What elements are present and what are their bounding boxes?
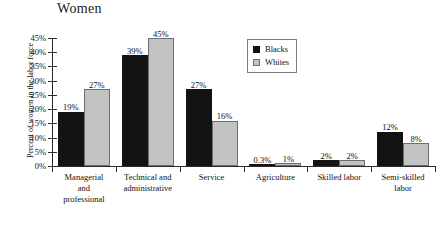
bar-whites: 2% <box>339 160 365 166</box>
bar-value-label: 19% <box>63 103 79 112</box>
bar-whites: 27% <box>84 89 110 166</box>
legend-swatch-icon <box>253 46 260 53</box>
category-label: Semi-skilledlabor <box>371 172 435 194</box>
y-tick-label: 40% <box>30 48 46 57</box>
bar-value-label: 8% <box>410 135 421 144</box>
bar-blacks: 12% <box>377 132 403 166</box>
category-label: Technical andadministrative <box>116 172 180 194</box>
bar-value-label: 45% <box>153 30 169 39</box>
y-tick-mark <box>48 123 57 124</box>
legend-item-whites: Whites <box>253 56 289 69</box>
y-tick-mark <box>48 66 57 67</box>
chart-legend: BlacksWhites <box>247 39 297 73</box>
category-label: Agriculture <box>244 172 308 183</box>
category-label-line: Service <box>180 172 244 183</box>
bar-blacks: 19% <box>58 112 84 166</box>
y-tick-label: 15% <box>30 119 46 128</box>
y-tick-label: 25% <box>30 91 46 100</box>
bar-value-label: 2% <box>347 152 358 161</box>
y-tick-mark <box>48 109 57 110</box>
bar-value-label: 16% <box>217 112 233 121</box>
y-tick-label: 35% <box>30 62 46 71</box>
y-tick-label: 10% <box>30 133 46 142</box>
bar-blacks: 39% <box>122 55 148 166</box>
bar-value-label: 39% <box>127 47 143 56</box>
plot-area: 0%5%10%15%20%25%30%35%40%45% 19%27%39%45… <box>52 38 435 166</box>
bar-blacks: 2% <box>313 160 339 166</box>
y-tick-mark <box>48 138 57 139</box>
category-label-line: professional <box>52 194 116 205</box>
y-tick-mark <box>48 81 57 82</box>
category-label: Managerialandprofessional <box>52 172 116 205</box>
y-tick-label: 5% <box>35 148 46 157</box>
bar-value-label: 2% <box>321 152 332 161</box>
legend-label: Whites <box>265 58 289 67</box>
y-tick-mark <box>48 52 57 53</box>
category-label: Service <box>180 172 244 183</box>
y-tick-mark <box>48 152 57 153</box>
y-tick-label: 45% <box>30 34 46 43</box>
y-tick-mark <box>48 95 57 96</box>
category-label-line: Semi-skilled <box>371 172 435 183</box>
bar-value-label: 12% <box>382 123 398 132</box>
bar-whites: 16% <box>212 121 238 167</box>
y-tick-label: 0% <box>35 162 46 171</box>
category-label-line: labor <box>371 183 435 194</box>
category-label-line: administrative <box>116 183 180 194</box>
category-label-line: Agriculture <box>244 172 308 183</box>
bar-blacks: 27% <box>186 89 212 166</box>
category-label-line: Skilled labor <box>307 172 371 183</box>
bar-value-label: 27% <box>89 81 105 90</box>
y-axis-line <box>52 38 53 167</box>
category-label-line: Managerial <box>52 172 116 183</box>
x-tick-mark <box>435 166 436 172</box>
category-label-line: Technical and <box>116 172 180 183</box>
y-tick-label: 20% <box>30 105 46 114</box>
bar-whites: 8% <box>403 143 429 166</box>
bar-chart: Women Percent of women in the labor forc… <box>0 0 445 226</box>
bar-whites: 1% <box>275 163 301 166</box>
category-label-line: and <box>52 183 116 194</box>
bar-value-label: 0.3% <box>254 156 272 165</box>
y-tick-label: 30% <box>30 76 46 85</box>
bar-value-label: 27% <box>191 81 207 90</box>
bar-blacks: 0.3% <box>249 164 275 166</box>
category-label: Skilled labor <box>307 172 371 183</box>
bar-whites: 45% <box>148 38 174 166</box>
legend-swatch-icon <box>253 59 260 66</box>
legend-item-blacks: Blacks <box>253 43 289 56</box>
y-tick-mark <box>48 38 57 39</box>
bar-value-label: 1% <box>283 155 294 164</box>
chart-title: Women <box>57 1 102 17</box>
legend-label: Blacks <box>265 45 288 54</box>
